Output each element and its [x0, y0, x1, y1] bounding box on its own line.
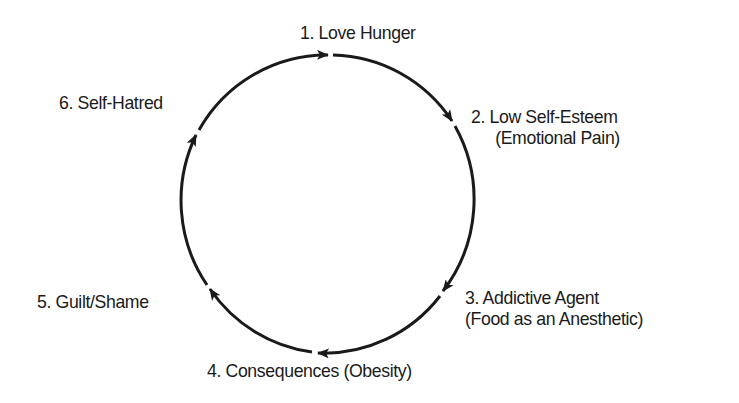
stage-2-title: 2. Low Self-Esteem: [471, 106, 620, 127]
stage-5-title: 5. Guilt/Shame: [37, 291, 149, 312]
stage-1-title: 1. Love Hunger: [300, 22, 416, 43]
arrow-2-to-3: [443, 126, 474, 291]
arrow-5-to-6: [181, 135, 207, 285]
stage-4-title: 4. Consequences (Obesity): [207, 360, 412, 381]
stage-3-subtitle: (Food as an Anesthetic): [465, 308, 643, 329]
stage-4-label: 4. Consequences (Obesity): [207, 360, 412, 381]
stage-6-label: 6. Self-Hatred: [59, 92, 163, 113]
arrow-4-to-5: [210, 289, 312, 352]
stage-6-title: 6. Self-Hatred: [59, 92, 163, 113]
stage-2-subtitle: (Emotional Pain): [471, 127, 620, 148]
arrow-1-to-2: [333, 55, 452, 121]
arrow-6-to-1: [199, 55, 328, 130]
arrow-3-to-4: [318, 296, 440, 353]
stage-3-label: 3. Addictive Agent (Food as an Anestheti…: [465, 287, 643, 329]
stage-5-label: 5. Guilt/Shame: [37, 291, 149, 312]
stage-1-label: 1. Love Hunger: [300, 22, 416, 43]
cycle-diagram: [0, 0, 739, 403]
stage-3-title: 3. Addictive Agent: [465, 287, 643, 308]
stage-2-label: 2. Low Self-Esteem (Emotional Pain): [471, 106, 620, 148]
